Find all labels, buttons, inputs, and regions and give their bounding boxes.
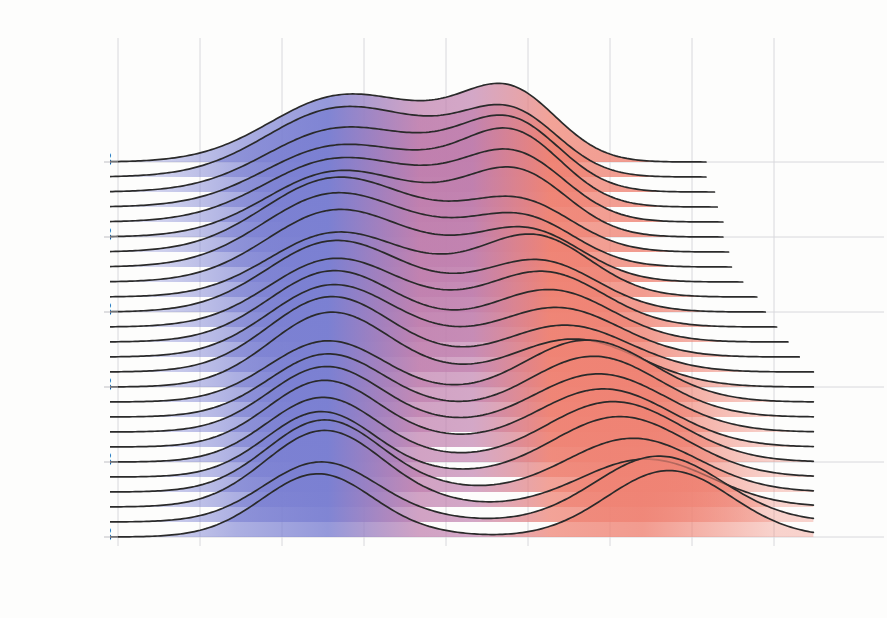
bottom-mask (0, 546, 887, 618)
ridgeline-plot (0, 0, 887, 618)
left-mask (0, 0, 110, 618)
top-mask (0, 0, 887, 38)
ridge-curves (79, 83, 814, 537)
chart-root: DW-NOMINATE by party of U.S. House: 1963… (0, 0, 887, 618)
